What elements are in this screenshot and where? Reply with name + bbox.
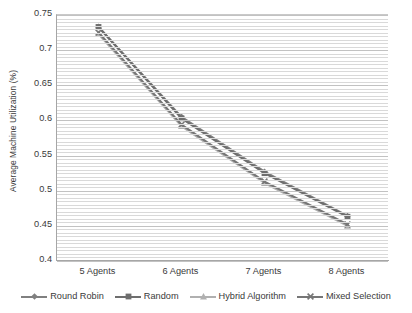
gridline-minor: [57, 82, 388, 83]
y-tick-label: 0.65: [24, 80, 52, 89]
gridline-minor: [57, 142, 388, 143]
y-tick-label: 0.45: [24, 220, 52, 229]
x-tick-label: 8 Agents: [305, 264, 388, 280]
x-axis-line: [56, 260, 389, 261]
gridline-minor: [57, 243, 388, 244]
gridline-minor: [57, 71, 388, 72]
gridline-minor: [57, 233, 388, 234]
gridline-minor: [57, 19, 388, 20]
line-chart: Average Machine Utilization (%) 0.40.450…: [0, 0, 412, 313]
legend-swatch-icon: [190, 292, 216, 302]
gridline-minor: [57, 152, 388, 153]
gridline-minor: [57, 163, 388, 164]
legend-item-random[interactable]: Random: [115, 292, 179, 302]
legend-marker-icon: [125, 293, 132, 300]
gridline-minor: [57, 198, 388, 199]
x-tick-label: 5 Agents: [56, 264, 139, 280]
legend-marker-icon: [307, 293, 314, 300]
gridline-major: [57, 50, 388, 51]
gridline-minor: [57, 247, 388, 248]
gridline-minor: [57, 61, 388, 62]
gridline-minor: [57, 254, 388, 255]
gridline-minor: [57, 68, 388, 69]
gridline-major: [57, 85, 388, 86]
legend-item-label: Hybrid Algorithm: [219, 292, 286, 301]
gridline-minor: [57, 170, 388, 171]
gridline-minor: [57, 159, 388, 160]
gridline-minor: [57, 96, 388, 97]
y-tick-label: 0.5: [24, 185, 52, 194]
gridline-minor: [57, 117, 388, 118]
gridline-minor: [57, 78, 388, 79]
gridline-major: [57, 226, 388, 227]
gridline-minor: [57, 250, 388, 251]
y-tick-label: 0.55: [24, 150, 52, 159]
gridline-minor: [57, 127, 388, 128]
legend-item-label: Mixed Selection: [326, 292, 391, 301]
gridline-minor: [57, 57, 388, 58]
gridline-minor: [57, 110, 388, 111]
gridline-minor: [57, 134, 388, 135]
y-axis-title-label: Average Machine Utilization (%): [8, 70, 18, 192]
legend-item-hybrid-algorithm[interactable]: Hybrid Algorithm: [190, 292, 286, 302]
gridline-major: [57, 191, 388, 192]
gridline-minor: [57, 177, 388, 178]
x-tick-label: 7 Agents: [222, 264, 305, 280]
legend-item-label: Round Robin: [50, 292, 104, 301]
gridline-minor: [57, 29, 388, 30]
gridline-minor: [57, 173, 388, 174]
gridline-major: [57, 261, 388, 262]
gridline-minor: [57, 33, 388, 34]
gridline-minor: [57, 138, 388, 139]
gridline-minor: [57, 99, 388, 100]
legend-item-round-robin[interactable]: Round Robin: [21, 292, 104, 302]
gridline-minor: [57, 229, 388, 230]
gridline-minor: [57, 145, 388, 146]
legend-item-label: Random: [144, 292, 179, 301]
gridline-minor: [57, 106, 388, 107]
gridline-minor: [57, 187, 388, 188]
gridline-minor: [57, 89, 388, 90]
gridline-minor: [57, 208, 388, 209]
gridline-minor: [57, 166, 388, 167]
x-tick-label: 6 Agents: [139, 264, 222, 280]
y-tick-label: 0.7: [24, 45, 52, 54]
plot-area: [56, 14, 388, 260]
gridline-minor: [57, 219, 388, 220]
gridline-minor: [57, 215, 388, 216]
gridline-minor: [57, 22, 388, 23]
gridline-minor: [57, 201, 388, 202]
legend-item-mixed-selection[interactable]: Mixed Selection: [297, 292, 391, 302]
gridline-minor: [57, 64, 388, 65]
x-axis-tick-labels: 5 Agents6 Agents7 Agents8 Agents: [56, 264, 388, 280]
y-tick-label: 0.75: [24, 9, 52, 18]
legend-swatch-icon: [297, 292, 323, 302]
legend-swatch-icon: [115, 292, 141, 302]
plot-gridlines: [57, 15, 388, 260]
gridline-minor: [57, 257, 388, 258]
gridline-minor: [57, 222, 388, 223]
y-tick-label: 0.4: [24, 255, 52, 264]
legend-marker-icon: [31, 293, 38, 300]
gridline-minor: [57, 54, 388, 55]
gridline-major: [57, 15, 388, 16]
legend-marker-icon: [200, 293, 207, 300]
gridline-minor: [57, 194, 388, 195]
gridline-minor: [57, 212, 388, 213]
gridline-minor: [57, 43, 388, 44]
gridline-minor: [57, 92, 388, 93]
gridline-minor: [57, 124, 388, 125]
legend-swatch-icon: [21, 292, 47, 302]
gridline-minor: [57, 113, 388, 114]
gridline-minor: [57, 180, 388, 181]
y-axis-tick-labels: 0.40.450.50.550.60.650.70.75: [22, 0, 52, 313]
gridline-minor: [57, 205, 388, 206]
gridline-major: [57, 156, 388, 157]
gridline-major: [57, 120, 388, 121]
gridline-minor: [57, 47, 388, 48]
gridline-minor: [57, 149, 388, 150]
y-tick-label: 0.6: [24, 115, 52, 124]
gridline-minor: [57, 103, 388, 104]
gridline-minor: [57, 36, 388, 37]
gridline-minor: [57, 184, 388, 185]
